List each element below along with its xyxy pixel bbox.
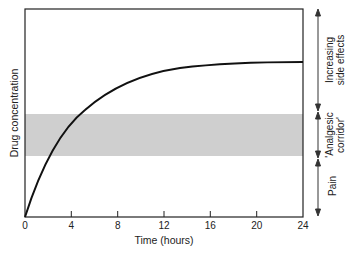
tick-4: 4 — [69, 220, 75, 231]
tick-12: 12 — [158, 220, 170, 231]
side-arrows — [316, 9, 321, 216]
x-ticks — [71, 211, 256, 217]
analgesic-corridor-band — [25, 114, 303, 156]
arrow-up-icon — [316, 112, 321, 119]
y-axis-label: Drug concentration — [8, 68, 20, 157]
arrow-down-icon — [316, 151, 321, 158]
side-label-side-effects: side effects — [335, 35, 346, 85]
side-label-analgesic: 'Analgesic — [324, 112, 335, 157]
tick-20: 20 — [251, 220, 263, 231]
tick-24: 24 — [297, 220, 309, 231]
tick-0: 0 — [22, 220, 28, 231]
side-label-corridor: corridor' — [335, 117, 346, 153]
plot-frame — [25, 9, 303, 217]
side-label-increasing: Increasing — [324, 37, 335, 83]
tick-16: 16 — [205, 220, 217, 231]
x-tick-labels: 0 4 8 12 16 20 24 — [22, 220, 309, 231]
arrow-down-icon — [316, 209, 321, 216]
arrow-up-icon — [316, 9, 321, 16]
x-axis-label: Time (hours) — [134, 234, 193, 246]
arrow-down-icon — [316, 104, 321, 111]
side-label-pain: Pain — [327, 176, 338, 196]
arrow-up-icon — [316, 159, 321, 166]
tick-8: 8 — [115, 220, 121, 231]
side-labels: Increasing side effects 'Analgesic corri… — [324, 35, 346, 196]
chart: 0 4 8 12 16 20 24 Time (hours) Drug conc… — [0, 0, 352, 258]
